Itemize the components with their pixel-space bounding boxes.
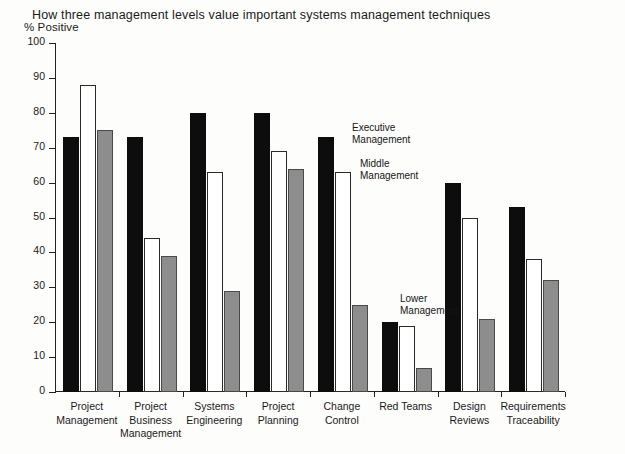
bar bbox=[207, 172, 223, 392]
bar bbox=[382, 322, 398, 392]
bar bbox=[144, 238, 160, 392]
x-tick bbox=[310, 392, 311, 397]
x-tick bbox=[183, 392, 184, 397]
y-tick-label: 100 bbox=[5, 35, 45, 47]
plot-area: 0102030405060708090100 bbox=[55, 43, 565, 392]
bar-group bbox=[246, 43, 310, 392]
chart-title: How three management levels value import… bbox=[32, 8, 490, 22]
y-tick-label: 70 bbox=[5, 140, 45, 152]
bar bbox=[445, 183, 461, 392]
series-annotation-3: Lower Management bbox=[400, 293, 458, 317]
x-tick bbox=[438, 392, 439, 397]
bar bbox=[224, 291, 240, 392]
y-tick-label: 90 bbox=[5, 70, 45, 82]
x-axis-category-label: Requirements Traceability bbox=[483, 400, 583, 427]
bar bbox=[254, 113, 270, 392]
y-tick-label: 20 bbox=[5, 314, 45, 326]
y-tick-label: 60 bbox=[5, 175, 45, 187]
bar-group bbox=[55, 43, 119, 392]
y-tick-label: 80 bbox=[5, 105, 45, 117]
bar bbox=[399, 326, 415, 392]
bar bbox=[335, 172, 351, 392]
bar bbox=[352, 305, 368, 392]
bar-group bbox=[374, 43, 438, 392]
bar bbox=[288, 169, 304, 392]
y-tick-label: 30 bbox=[5, 279, 45, 291]
bar-group bbox=[183, 43, 247, 392]
bar bbox=[271, 151, 287, 392]
y-tick-label: 10 bbox=[5, 349, 45, 361]
bar bbox=[161, 256, 177, 392]
bar-group bbox=[310, 43, 374, 392]
bar-chart: % Positive How three management levels v… bbox=[0, 0, 625, 454]
bar-group bbox=[501, 43, 565, 392]
y-tick-label: 0 bbox=[5, 384, 45, 396]
series-annotation-1: Executive Management bbox=[352, 122, 410, 146]
bar bbox=[97, 130, 113, 392]
bar bbox=[318, 137, 334, 392]
series-annotation-2: Middle Management bbox=[360, 158, 418, 182]
bar bbox=[509, 207, 525, 392]
x-tick bbox=[246, 392, 247, 397]
bar bbox=[479, 319, 495, 392]
y-tick-label: 40 bbox=[5, 244, 45, 256]
x-tick bbox=[374, 392, 375, 397]
bar bbox=[526, 259, 542, 392]
bar bbox=[190, 113, 206, 392]
y-axis-title: % Positive bbox=[24, 21, 79, 33]
x-tick bbox=[501, 392, 502, 397]
bar-group bbox=[438, 43, 502, 392]
x-tick bbox=[119, 392, 120, 397]
bar bbox=[543, 280, 559, 392]
bar-group bbox=[119, 43, 183, 392]
bar bbox=[80, 85, 96, 392]
bar bbox=[416, 368, 432, 392]
y-tick-label: 50 bbox=[5, 210, 45, 222]
bar bbox=[63, 137, 79, 392]
y-tick: 0 bbox=[49, 392, 55, 393]
bar bbox=[462, 218, 478, 393]
x-tick bbox=[565, 392, 566, 397]
bar bbox=[127, 137, 143, 392]
